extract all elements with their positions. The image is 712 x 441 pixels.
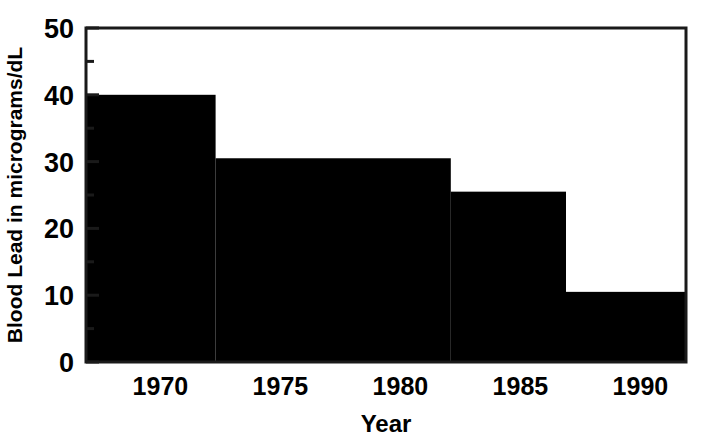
y-tick-label: 20 [44, 214, 74, 244]
bar-segment [216, 158, 451, 362]
x-tick-label: 1975 [253, 372, 309, 400]
y-tick-label: 30 [44, 148, 74, 178]
x-tick-label: 1980 [373, 372, 429, 400]
bar-segment [451, 192, 566, 362]
x-tick-label: 1970 [133, 372, 189, 400]
chart-container: 01020304050 19701975198019851990 Year Bl… [0, 0, 712, 441]
x-tick-label: 1985 [493, 372, 549, 400]
y-axis-title: Blood Lead in micrograms/dL [3, 47, 26, 344]
y-tick-label: 0 [59, 348, 74, 378]
bar-segment [86, 95, 216, 362]
x-tick-label: 1990 [613, 372, 669, 400]
blood-lead-bar-chart: 01020304050 19701975198019851990 Year Bl… [0, 0, 712, 441]
y-tick-label: 40 [44, 81, 74, 111]
y-tick-label: 10 [44, 281, 74, 311]
bar-segment [566, 292, 686, 362]
y-tick-label: 50 [44, 14, 74, 44]
x-axis-title: Year [361, 410, 412, 437]
